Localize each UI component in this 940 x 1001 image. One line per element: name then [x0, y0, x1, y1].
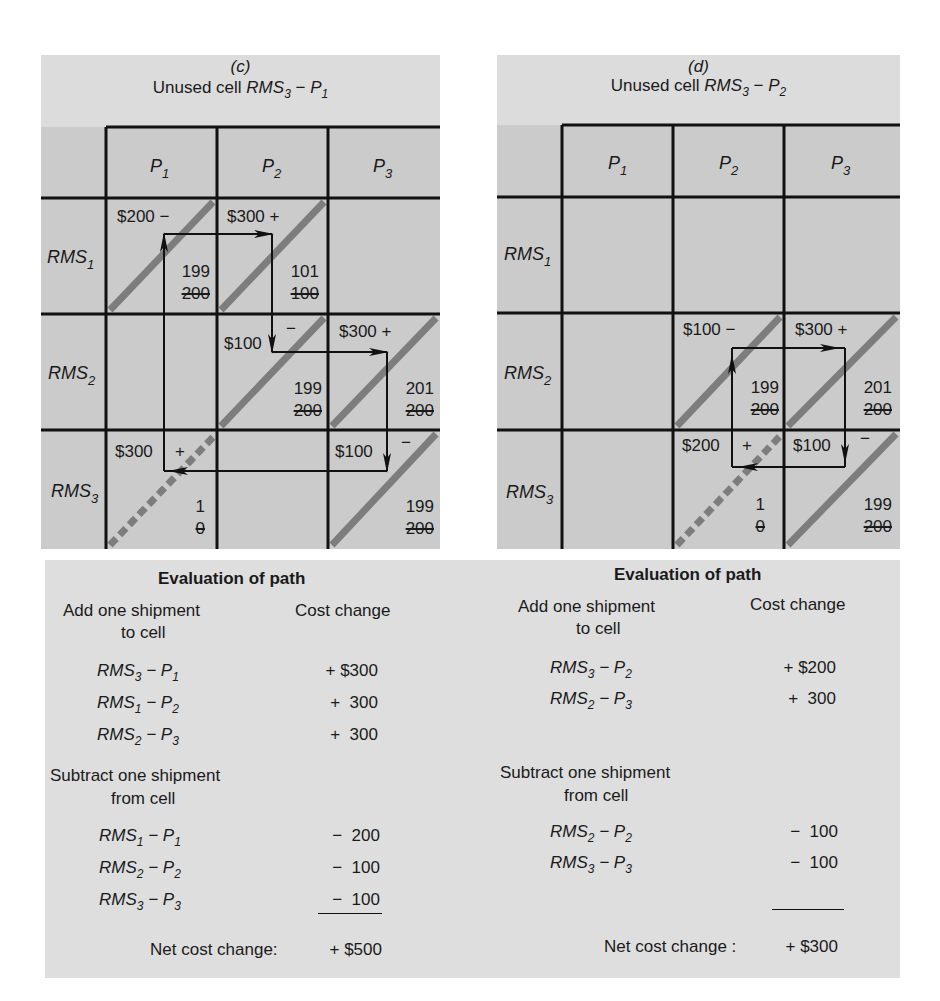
cell-d-r2c2-old: 200 [737, 401, 779, 418]
eval-c-sub-val-2: − 100 [300, 859, 380, 876]
panel-d-col-p2: P2 [719, 154, 738, 172]
eval-c-net-value: + $500 [300, 941, 382, 958]
eval-d-add-label-2: to cell [576, 620, 620, 637]
panel-d-row-rms3: RMS3 [506, 483, 553, 501]
eval-d-add-val-2: + 300 [758, 690, 836, 707]
eval-c-sub-label: Subtract one shipment [50, 767, 220, 784]
eval-d-sub-row-2: RMS3 − P3 [550, 854, 632, 871]
eval-c-add-val-2: + 300 [300, 694, 378, 711]
eval-c-add-row-2: RMS1 − P2 [97, 694, 179, 711]
eval-d-add-val-1: + $200 [758, 659, 836, 676]
eval-c-add-row-3: RMS2 − P3 [97, 726, 179, 743]
eval-c-add-label-2: to cell [121, 624, 165, 641]
cell-d-r3c2-cost: $200 [682, 437, 720, 454]
eval-d-total-rule [772, 909, 844, 910]
eval-c-add-val-1: + $300 [300, 662, 378, 679]
eval-c-cost-header: Cost change [295, 602, 390, 619]
panel-d-row-rms1: RMS1 [504, 245, 551, 263]
cell-d-r3c3-new: 199 [850, 496, 892, 513]
eval-c-sub-row-1: RMS1 − P1 [99, 827, 181, 844]
eval-c-add-row-1: RMS3 − P1 [97, 662, 179, 679]
eval-d-sub-val-2: − 100 [758, 854, 838, 871]
cell-d-r3c2-sign: + [742, 437, 752, 454]
eval-d-heading: Evaluation of path [614, 566, 761, 583]
eval-c-add-label: Add one shipment [63, 602, 200, 619]
cell-d-r2c2-cost: $100 − [683, 321, 736, 338]
cell-d-r2c2-new: 199 [737, 379, 779, 396]
eval-d-cost-header: Cost change [750, 596, 845, 613]
cell-d-r3c3-old: 200 [850, 518, 892, 535]
panel-d-row-rms2: RMS2 [504, 364, 551, 382]
eval-d-add-row-1: RMS3 − P2 [550, 659, 632, 676]
cell-d-r2c3-old: 200 [850, 401, 892, 418]
eval-d-sub-val-1: − 100 [758, 823, 838, 840]
cell-d-r3c2-old: 0 [740, 518, 765, 535]
eval-d-sub-label-2: from cell [564, 787, 628, 804]
cell-d-r3c3-cost: $100 [793, 437, 831, 454]
eval-c-sub-label-2: from cell [111, 790, 175, 807]
panel-d-col-p3: P3 [831, 154, 850, 172]
panel-d-col-p1: P1 [608, 154, 627, 172]
cell-d-r3c3-sign: − [860, 430, 870, 447]
eval-c-add-val-3: + 300 [300, 726, 378, 743]
cell-d-r2c3-new: 201 [850, 379, 892, 396]
eval-d-add-row-2: RMS2 − P3 [550, 690, 632, 707]
eval-c-sub-row-2: RMS2 − P2 [99, 859, 181, 876]
eval-d-add-label: Add one shipment [518, 598, 655, 615]
eval-c-total-rule [318, 913, 382, 914]
eval-d-net-label: Net cost change : [604, 938, 736, 955]
cell-d-r2c3-cost: $300 + [795, 321, 848, 338]
eval-c-sub-val-1: − 200 [300, 827, 380, 844]
eval-c-heading: Evaluation of path [158, 570, 305, 587]
eval-d-sub-row-1: RMS2 − P2 [550, 823, 632, 840]
cell-d-r3c2-new: 1 [740, 496, 765, 513]
eval-d-net-value: + $300 [758, 938, 838, 955]
eval-d-sub-label: Subtract one shipment [500, 764, 670, 781]
eval-c-sub-val-3: − 100 [300, 891, 380, 908]
eval-c-net-label: Net cost change: [150, 941, 278, 958]
eval-c-sub-row-3: RMS3 − P3 [99, 891, 181, 908]
